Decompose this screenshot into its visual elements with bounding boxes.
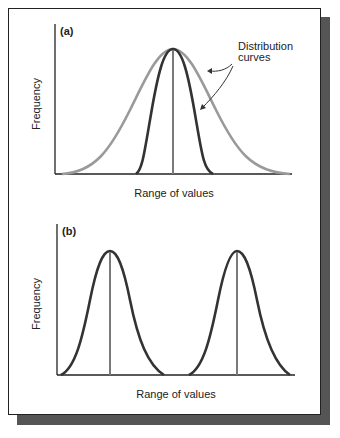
panel-b-xlabel: Range of values (136, 388, 216, 400)
annotation-arrow-narrow (202, 66, 233, 108)
panel-a-label: (a) (60, 25, 74, 37)
panel-b-ylabel: Frequency (30, 278, 42, 330)
annotation-line-2: curves (238, 51, 271, 63)
panel-a: (a) Frequency Range of values Distributi… (30, 24, 293, 199)
panel-b: (b) Frequency Range of values (30, 224, 295, 400)
annotation-arrow-wide (209, 64, 232, 71)
arrowhead-icon (207, 68, 212, 74)
narrow-distribution-curve (136, 49, 213, 174)
right-distribution-curve (189, 251, 290, 375)
panel-b-label: (b) (62, 225, 76, 237)
wide-distribution-curve (62, 49, 290, 174)
left-distribution-curve (61, 251, 164, 375)
panel-a-ylabel: Frequency (30, 78, 42, 130)
figure-svg: (a) Frequency Range of values Distributi… (0, 0, 340, 438)
panel-a-xlabel: Range of values (134, 187, 214, 199)
